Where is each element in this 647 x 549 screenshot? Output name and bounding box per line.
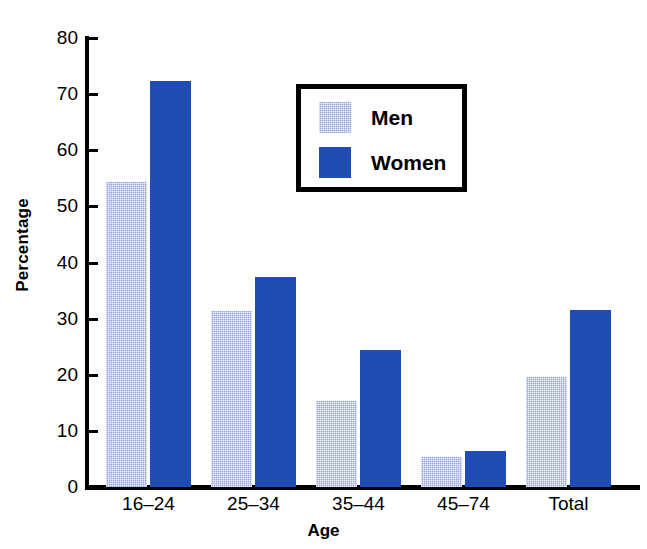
y-axis-tick-labels: 01020304050607080: [28, 0, 78, 549]
bar-women-3: [465, 451, 506, 487]
legend-item-men: Men: [319, 102, 413, 133]
x-axis-tick-label: 45–74: [407, 494, 520, 513]
legend-item-women: Women: [319, 147, 446, 178]
y-axis-tick-label: 80: [38, 28, 78, 47]
y-axis-tick-label: 30: [38, 309, 78, 328]
y-axis-tick-label: 0: [38, 477, 78, 496]
legend-swatch-men-icon: [319, 102, 351, 133]
x-axis-tick-label: Total: [512, 494, 625, 513]
y-axis-tick-label: 50: [38, 196, 78, 215]
bar-women-4: [570, 310, 611, 487]
bar-women-2: [360, 350, 401, 488]
bar-men-1: [211, 311, 252, 487]
y-axis-tick-label: 20: [38, 365, 78, 384]
x-axis-tick-label: 16–24: [92, 494, 205, 513]
bar-women-0: [150, 81, 191, 487]
bar-men-4: [526, 377, 567, 487]
y-axis-tick-label: 40: [38, 253, 78, 272]
bar-group: [211, 38, 296, 487]
y-axis-tick-label: 10: [38, 421, 78, 440]
x-axis-title: Age: [0, 521, 647, 541]
legend-label-men: Men: [371, 106, 413, 130]
legend-swatch-women-icon: [319, 147, 351, 178]
bar-men-2: [316, 401, 357, 487]
x-axis-tick-label: 25–34: [197, 494, 310, 513]
bar-men-0: [106, 182, 147, 487]
legend-label-women: Women: [371, 151, 446, 175]
bar-chart: Percentage 01020304050607080 16–2425–343…: [0, 0, 647, 549]
y-axis-tick-label: 70: [38, 84, 78, 103]
bar-group: [526, 38, 611, 487]
bar-group: [106, 38, 191, 487]
legend: Men Women: [296, 84, 467, 192]
y-axis-tick-label: 60: [38, 140, 78, 159]
x-axis-tick-label: 35–44: [302, 494, 415, 513]
bar-men-3: [421, 457, 462, 487]
bar-women-1: [255, 277, 296, 487]
